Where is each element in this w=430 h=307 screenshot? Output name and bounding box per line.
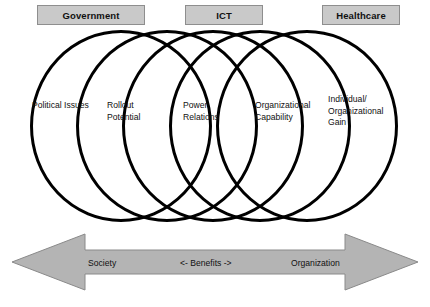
venn-circle-2 [78, 32, 257, 221]
region-label-individual-organizational-gain: Individual/ Organizational Gain [328, 94, 383, 129]
region-line: Rollout [107, 100, 140, 112]
venn-circle-1 [32, 32, 211, 221]
region-label-organizational-capability: Organizational Capability [255, 100, 310, 123]
region-line: Gain [328, 117, 383, 129]
region-line: Relations [183, 112, 219, 124]
region-line: Potential [107, 112, 140, 124]
region-line: Power [183, 100, 219, 112]
region-line: Organizational [328, 106, 383, 118]
venn-diagram-figure: Government ICT Healthcare Political Issu… [0, 0, 430, 307]
region-line: Capability [255, 112, 310, 124]
region-line: Political Issues [32, 100, 89, 112]
venn-circle-3 [124, 32, 303, 221]
region-label-political-issues: Political Issues [32, 100, 89, 112]
venn-circle-4 [171, 32, 350, 221]
arrow-label-society: Society [88, 258, 116, 268]
arrow-label-organization: Organization [291, 258, 340, 268]
region-line: Individual/ [328, 94, 383, 106]
region-label-rollout-potential: Rollout Potential [107, 100, 140, 123]
region-line: Organizational [255, 100, 310, 112]
arrow-label-benefits: <- Benefits -> [180, 258, 232, 268]
region-label-power-relations: Power Relations [183, 100, 219, 123]
